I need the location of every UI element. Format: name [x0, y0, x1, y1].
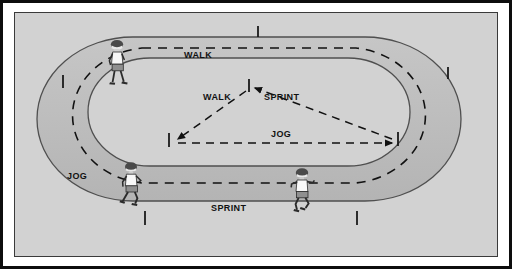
- diagram-plate: WALK WALK SPRINT JOG JOG SPRINT: [14, 12, 498, 257]
- label-sprint-track: SPRINT: [211, 203, 246, 213]
- label-jog-track: JOG: [67, 171, 87, 181]
- track-scene: WALK WALK SPRINT JOG JOG SPRINT: [15, 13, 498, 257]
- track-illustration: [15, 13, 498, 257]
- label-jog-triangle: JOG: [271, 129, 291, 139]
- track-infield: [88, 58, 410, 166]
- label-walk-track: WALK: [184, 50, 212, 60]
- label-walk-triangle: WALK: [203, 92, 231, 102]
- label-sprint-triangle: SPRINT: [264, 92, 299, 102]
- figure-root: WALK WALK SPRINT JOG JOG SPRINT: [0, 0, 512, 269]
